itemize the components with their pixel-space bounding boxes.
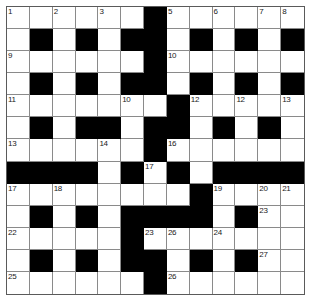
crossword-cell[interactable]: 16 <box>167 139 190 161</box>
crossword-cell[interactable] <box>53 206 76 228</box>
crossword-cell[interactable] <box>190 7 213 29</box>
crossword-cell[interactable]: 23 <box>258 206 281 228</box>
crossword-cell[interactable]: 23 <box>144 228 167 250</box>
crossword-cell[interactable] <box>213 29 236 51</box>
crossword-cell[interactable] <box>98 228 121 250</box>
crossword-cell[interactable] <box>190 228 213 250</box>
crossword-cell[interactable]: 3 <box>98 7 121 29</box>
crossword-cell[interactable] <box>30 7 53 29</box>
crossword-cell[interactable]: 13 <box>7 139 30 161</box>
crossword-cell[interactable] <box>76 228 99 250</box>
crossword-cell[interactable] <box>190 117 213 139</box>
crossword-cell[interactable] <box>258 272 281 294</box>
crossword-cell[interactable] <box>30 228 53 250</box>
crossword-cell[interactable]: 7 <box>258 7 281 29</box>
crossword-cell[interactable] <box>30 51 53 73</box>
crossword-cell[interactable]: 10 <box>121 95 144 117</box>
crossword-cell[interactable]: 12 <box>235 95 258 117</box>
crossword-cell[interactable]: 24 <box>213 228 236 250</box>
crossword-cell[interactable] <box>53 272 76 294</box>
crossword-cell[interactable] <box>235 272 258 294</box>
crossword-cell[interactable] <box>53 117 76 139</box>
crossword-cell[interactable] <box>258 139 281 161</box>
crossword-cell[interactable] <box>213 73 236 95</box>
crossword-cell[interactable]: 27 <box>258 250 281 272</box>
crossword-cell[interactable] <box>235 228 258 250</box>
crossword-cell[interactable]: 17 <box>144 162 167 184</box>
crossword-cell[interactable]: 25 <box>7 272 30 294</box>
crossword-cell[interactable] <box>213 250 236 272</box>
crossword-cell[interactable] <box>53 73 76 95</box>
crossword-cell[interactable] <box>30 272 53 294</box>
crossword-cell[interactable] <box>121 7 144 29</box>
crossword-cell[interactable] <box>235 117 258 139</box>
crossword-cell[interactable]: 21 <box>281 184 304 206</box>
crossword-cell[interactable] <box>121 117 144 139</box>
crossword-cell[interactable] <box>258 95 281 117</box>
crossword-cell[interactable] <box>53 51 76 73</box>
crossword-cell[interactable] <box>281 51 304 73</box>
crossword-cell[interactable] <box>121 139 144 161</box>
crossword-cell[interactable] <box>98 272 121 294</box>
crossword-cell[interactable]: 6 <box>213 7 236 29</box>
crossword-cell[interactable] <box>258 228 281 250</box>
crossword-cell[interactable] <box>281 250 304 272</box>
crossword-cell[interactable] <box>258 73 281 95</box>
crossword-cell[interactable] <box>98 206 121 228</box>
crossword-cell[interactable] <box>98 95 121 117</box>
crossword-cell[interactable] <box>30 184 53 206</box>
crossword-cell[interactable] <box>121 184 144 206</box>
crossword-cell[interactable] <box>7 250 30 272</box>
crossword-cell[interactable] <box>98 29 121 51</box>
crossword-cell[interactable] <box>98 162 121 184</box>
crossword-cell[interactable] <box>7 29 30 51</box>
crossword-cell[interactable]: 2 <box>53 7 76 29</box>
crossword-cell[interactable] <box>190 51 213 73</box>
crossword-cell[interactable]: 19 <box>213 184 236 206</box>
crossword-cell[interactable] <box>281 272 304 294</box>
crossword-cell[interactable] <box>144 95 167 117</box>
crossword-cell[interactable]: 14 <box>98 139 121 161</box>
crossword-cell[interactable] <box>30 139 53 161</box>
crossword-cell[interactable] <box>76 272 99 294</box>
crossword-cell[interactable] <box>53 95 76 117</box>
crossword-cell[interactable] <box>76 95 99 117</box>
crossword-cell[interactable] <box>7 206 30 228</box>
crossword-cell[interactable] <box>213 139 236 161</box>
crossword-cell[interactable] <box>53 139 76 161</box>
crossword-cell[interactable] <box>7 73 30 95</box>
crossword-grid[interactable]: 1235678910111012121313141617171819202123… <box>7 7 304 294</box>
crossword-cell[interactable]: 5 <box>167 7 190 29</box>
crossword-cell[interactable] <box>167 29 190 51</box>
crossword-cell[interactable] <box>53 29 76 51</box>
crossword-cell[interactable] <box>98 51 121 73</box>
crossword-cell[interactable] <box>167 73 190 95</box>
crossword-cell[interactable]: 8 <box>281 7 304 29</box>
crossword-cell[interactable]: 20 <box>258 184 281 206</box>
crossword-cell[interactable] <box>190 272 213 294</box>
crossword-cell[interactable] <box>213 206 236 228</box>
crossword-cell[interactable] <box>281 206 304 228</box>
crossword-cell[interactable] <box>144 184 167 206</box>
crossword-cell[interactable]: 11 <box>7 95 30 117</box>
crossword-cell[interactable] <box>76 184 99 206</box>
crossword-cell[interactable] <box>213 95 236 117</box>
crossword-cell[interactable] <box>235 139 258 161</box>
crossword-cell[interactable]: 18 <box>53 184 76 206</box>
crossword-cell[interactable]: 13 <box>281 95 304 117</box>
crossword-cell[interactable] <box>235 51 258 73</box>
crossword-cell[interactable] <box>190 162 213 184</box>
crossword-cell[interactable] <box>213 51 236 73</box>
crossword-cell[interactable]: 10 <box>167 51 190 73</box>
crossword-cell[interactable] <box>53 250 76 272</box>
crossword-cell[interactable]: 17 <box>7 184 30 206</box>
crossword-cell[interactable] <box>76 7 99 29</box>
crossword-cell[interactable] <box>7 117 30 139</box>
crossword-cell[interactable] <box>281 117 304 139</box>
crossword-cell[interactable]: 1 <box>7 7 30 29</box>
crossword-cell[interactable]: 9 <box>7 51 30 73</box>
crossword-cell[interactable] <box>167 250 190 272</box>
crossword-cell[interactable] <box>76 139 99 161</box>
crossword-cell[interactable] <box>190 139 213 161</box>
crossword-cell[interactable] <box>235 184 258 206</box>
